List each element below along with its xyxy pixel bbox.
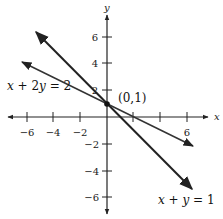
y-tick-label: −6 [84, 192, 99, 203]
y-tick-label: 4 [92, 58, 98, 69]
x-tick-label: −2 [73, 127, 88, 138]
intersection-point [104, 101, 110, 107]
y-tick-label: 6 [92, 32, 98, 43]
line-x-plus-y-eq-1 [36, 32, 192, 189]
y-tick-label: −2 [84, 139, 99, 150]
x-tick-label: −4 [46, 127, 61, 138]
x-tick-label: −6 [20, 127, 35, 138]
graph: −6 −4 −2 6 6 4 2 −2 −4 −6 x y (0,1) x + … [0, 0, 223, 219]
y-tick-label: −4 [84, 166, 99, 177]
x-axis-label: x [214, 111, 220, 122]
equation-label-x-plus-2y: x + 2y = 2 [7, 79, 71, 93]
y-axis-label: y [103, 2, 110, 13]
point-label: (0,1) [118, 91, 146, 105]
equation-label-x-plus-y: x + y = 1 [158, 193, 215, 207]
x-tick-label: 6 [184, 127, 190, 138]
